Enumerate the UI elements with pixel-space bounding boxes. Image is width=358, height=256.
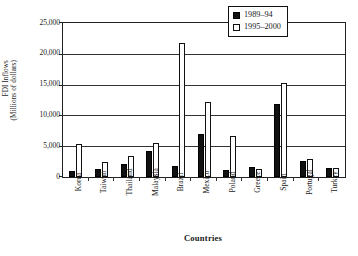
legend-label-series-1: 1989–94 [244,11,273,19]
legend-item-series-1: 1989–94 [233,9,281,21]
x-category-turkey: Turkey [318,180,344,224]
y-tick-label-20000: 20,000 [16,49,60,57]
bar-group-thailand [114,23,140,177]
x-category-malaysia: Malaysia [139,180,165,224]
x-category-label: Poland [229,171,237,192]
plot-area [62,22,346,178]
bar-spain-series-1 [274,104,280,177]
y-axis-title-line-1: FDI Inflows [3,60,10,96]
x-category-label: Greece [254,171,262,193]
y-tick-label-15000: 15,000 [16,80,60,88]
bar-group-mexico [191,23,217,177]
x-category-poland: Poland [216,180,242,224]
bar-mexico-series-2 [205,102,211,177]
legend-item-series-2: 1995–2000 [233,21,281,33]
bar-group-poland [217,23,243,177]
bar-group-turkey [319,23,345,177]
x-category-korea: Korea [62,180,88,224]
x-axis-category-labels: KoreaTaiwanThailandMalaysiaBrazilMexicoP… [62,180,344,224]
chart-legend: 1989–94 1995–2000 [228,6,288,37]
legend-swatch-1995-2000-icon [233,24,240,31]
y-axis-tick-labels: 25,000 20,000 15,000 10,000 5,000 0 [12,0,60,256]
bar-group-korea [63,23,89,177]
bar-brazil-series-2 [179,43,185,177]
x-category-spain: Spain [267,180,293,224]
x-category-label: Thailand [126,169,134,196]
y-tick-label-25000: 25,000 [16,19,60,27]
x-category-taiwan: Taiwan [88,180,114,224]
x-category-label: Spain [280,173,288,190]
fdi-inflows-bar-chart: FDI Inflows (Millions of dollars) 25,000… [0,0,358,256]
bar-group-taiwan [89,23,115,177]
x-category-thailand: Thailand [113,180,139,224]
x-category-portugal: Portugal [293,180,319,224]
x-category-label: Brazil [177,173,185,192]
x-category-label: Portugal [306,169,314,195]
x-category-label: Malaysia [152,168,160,196]
bar-group-spain [268,23,294,177]
y-tick-label-10000: 10,000 [16,111,60,119]
y-tick-label-5000: 5,000 [16,142,60,150]
x-category-label: Turkey [331,171,339,193]
legend-swatch-1989-94-icon [233,12,240,19]
bar-group-malaysia [140,23,166,177]
x-category-mexico: Mexico [190,180,216,224]
x-category-label: Korea [75,173,83,192]
x-category-brazil: Brazil [165,180,191,224]
legend-label-series-2: 1995–2000 [244,23,281,31]
x-axis-title: Countries [62,233,344,243]
bar-spain-series-2 [281,83,287,177]
bar-group-greece [242,23,268,177]
bar-group-brazil [166,23,192,177]
bar-group-portugal [294,23,320,177]
y-tick-label-0: 0 [16,173,60,181]
x-category-label: Taiwan [100,171,108,193]
x-category-greece: Greece [241,180,267,224]
bar-groups [63,23,345,177]
x-category-label: Mexico [203,170,211,193]
